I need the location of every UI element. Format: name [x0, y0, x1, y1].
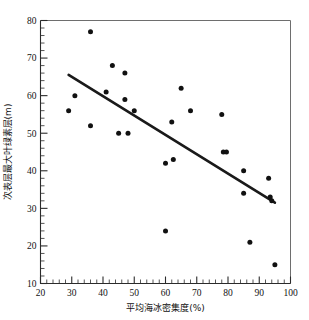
x-axis-tick-label: 100 [283, 288, 298, 298]
data-point [241, 168, 246, 173]
x-axis-tick-label: 60 [161, 288, 171, 298]
x-axis-tick-label: 70 [192, 288, 202, 298]
data-point [188, 108, 193, 113]
plot-axes [41, 21, 291, 284]
data-point [241, 191, 246, 196]
y-axis-title: 次表层最大叶绿素层(m) [2, 104, 13, 201]
x-axis-tick-label: 40 [98, 288, 108, 298]
plot-frame [41, 21, 291, 284]
y-axis-tick-label: 20 [27, 241, 37, 251]
scatter-plot-figure: 20304050607080901001020304050607080平均海冰密… [0, 0, 309, 320]
y-axis-tick-label: 30 [27, 204, 37, 214]
y-axis-tick-label: 80 [27, 16, 37, 26]
y-axis-tick-label: 70 [27, 53, 37, 63]
x-axis-tick-label: 50 [130, 288, 140, 298]
data-point [163, 161, 168, 166]
data-point [132, 108, 137, 113]
data-point [88, 123, 93, 128]
data-point [269, 198, 274, 203]
data-point [171, 157, 176, 162]
data-point [266, 176, 271, 181]
data-point [104, 89, 109, 94]
y-axis-tick-label: 50 [27, 129, 37, 139]
data-point [219, 112, 224, 117]
trend-line [69, 75, 275, 203]
data-point [116, 131, 121, 136]
data-point [169, 119, 174, 124]
x-axis-tick-label: 30 [67, 288, 77, 298]
y-axis-tick-label: 10 [27, 279, 37, 289]
data-point [66, 108, 71, 113]
data-point [179, 86, 184, 91]
y-axis-tick-label: 60 [27, 91, 37, 101]
x-axis-title: 平均海冰密集度(%) [126, 302, 205, 313]
data-point [126, 131, 131, 136]
data-point [163, 228, 168, 233]
data-point [224, 150, 229, 155]
x-axis-tick-label: 80 [223, 288, 233, 298]
data-point [110, 63, 115, 68]
x-axis-tick-label: 90 [255, 288, 265, 298]
chart-canvas: 20304050607080901001020304050607080平均海冰密… [0, 0, 309, 320]
data-point [247, 240, 252, 245]
data-point [122, 97, 127, 102]
data-point [88, 29, 93, 34]
data-point [272, 262, 277, 267]
data-point [122, 71, 127, 76]
y-axis-tick-label: 40 [27, 166, 37, 176]
x-axis-tick-label: 20 [36, 288, 46, 298]
data-point [72, 93, 77, 98]
